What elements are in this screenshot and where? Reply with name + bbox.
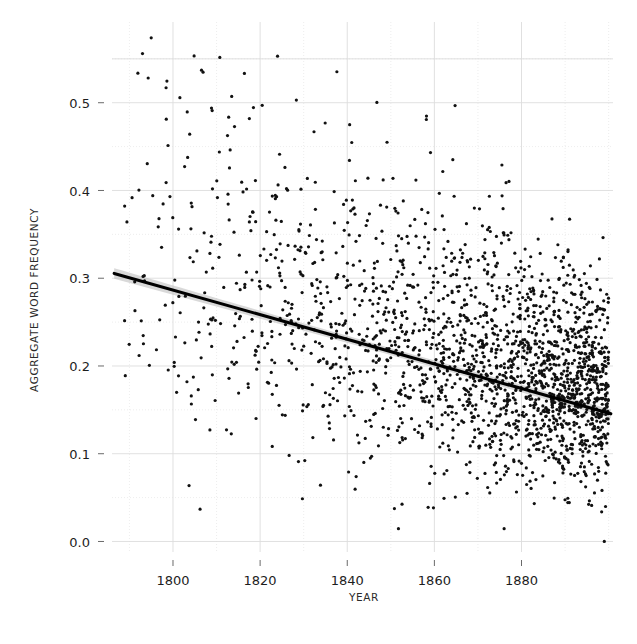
data-point: [592, 355, 595, 358]
data-point: [155, 348, 158, 351]
data-point: [542, 333, 545, 336]
data-point: [541, 419, 544, 422]
data-point: [560, 434, 563, 437]
data-point: [597, 443, 600, 446]
data-point: [468, 471, 471, 474]
data-point: [552, 296, 555, 299]
data-point: [434, 380, 437, 383]
data-point: [521, 296, 524, 299]
data-point: [525, 309, 528, 312]
data-point: [286, 244, 289, 247]
data-point: [483, 238, 486, 241]
data-point: [595, 419, 598, 422]
data-point: [588, 286, 591, 289]
data-point: [482, 346, 485, 349]
data-point: [372, 337, 375, 340]
data-point: [604, 472, 607, 475]
data-point: [515, 419, 518, 422]
data-point: [451, 436, 454, 439]
data-point: [474, 317, 477, 320]
data-point: [462, 404, 465, 407]
data-point: [430, 425, 433, 428]
data-point: [586, 419, 589, 422]
data-point: [587, 503, 590, 506]
data-point: [561, 395, 564, 398]
data-point: [603, 360, 606, 363]
data-point: [516, 473, 519, 476]
data-point: [265, 259, 268, 262]
data-point: [404, 310, 407, 313]
data-point: [440, 360, 443, 363]
data-point: [545, 367, 548, 370]
data-point: [559, 389, 562, 392]
data-point: [302, 403, 305, 406]
data-point: [447, 405, 450, 408]
data-point: [484, 333, 487, 336]
data-point: [192, 375, 195, 378]
data-point: [507, 421, 510, 424]
data-point: [490, 419, 493, 422]
data-point: [491, 289, 494, 292]
data-point: [580, 296, 583, 299]
data-point: [562, 266, 565, 269]
data-point: [599, 288, 602, 291]
data-point: [230, 95, 233, 98]
data-point: [165, 118, 168, 121]
data-point: [351, 384, 354, 387]
data-point: [402, 371, 405, 374]
data-point: [257, 345, 260, 348]
data-point: [400, 273, 403, 276]
data-point: [495, 481, 498, 484]
data-point: [465, 319, 468, 322]
data-point: [483, 257, 486, 260]
data-point: [240, 181, 243, 184]
data-point: [202, 306, 205, 309]
data-point: [541, 347, 544, 350]
data-point: [444, 395, 447, 398]
data-point: [507, 300, 510, 303]
data-point: [165, 79, 168, 82]
data-point: [414, 178, 417, 181]
data-point: [503, 388, 506, 391]
data-point: [547, 279, 550, 282]
data-point: [437, 395, 440, 398]
data-point: [326, 291, 329, 294]
data-point: [354, 240, 357, 243]
data-point: [514, 379, 517, 382]
data-point: [505, 433, 508, 436]
data-point: [561, 426, 564, 429]
data-point: [499, 407, 502, 410]
data-point: [165, 181, 168, 184]
data-point: [270, 371, 273, 374]
data-point: [379, 329, 382, 332]
data-point: [178, 96, 181, 99]
data-point: [177, 228, 180, 231]
data-point: [243, 283, 246, 286]
data-point: [381, 407, 384, 410]
data-point: [401, 421, 404, 424]
data-point: [538, 340, 541, 343]
data-point: [328, 403, 331, 406]
data-point: [516, 425, 519, 428]
data-point: [423, 317, 426, 320]
data-point: [600, 510, 603, 513]
data-point: [297, 228, 300, 231]
data-point: [546, 438, 549, 441]
data-point: [478, 445, 481, 448]
data-point: [207, 322, 210, 325]
data-point: [419, 390, 422, 393]
data-point: [227, 116, 230, 119]
data-point: [573, 274, 576, 277]
data-point: [585, 356, 588, 359]
data-point: [179, 311, 182, 314]
data-point: [587, 335, 590, 338]
data-point: [413, 428, 416, 431]
data-point: [493, 254, 496, 257]
data-point: [496, 338, 499, 341]
data-point: [401, 375, 404, 378]
data-point: [607, 301, 610, 304]
data-point: [442, 297, 445, 300]
data-point: [465, 463, 468, 466]
data-point: [578, 426, 581, 429]
data-point: [510, 375, 513, 378]
